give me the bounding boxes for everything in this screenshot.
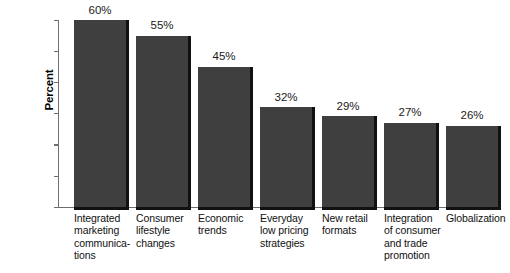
category-label-line: Everyday xyxy=(260,212,330,224)
bar-item: 32% xyxy=(260,85,312,207)
bar-rect xyxy=(322,116,374,206)
category-label-line: changes xyxy=(136,237,206,249)
category-label-line: of consumer xyxy=(384,224,454,236)
y-tick-mark xyxy=(54,144,59,145)
category-label: Everydaylow pricingstrategies xyxy=(260,212,330,249)
bar-value-label: 26% xyxy=(446,109,498,121)
category-label: Integratedmarketingcommunica-tions xyxy=(74,212,144,262)
bar-value-label: 32% xyxy=(260,91,312,103)
category-label-line: communica- xyxy=(74,237,144,249)
bar-item: 45% xyxy=(198,45,250,207)
y-tick-mark xyxy=(54,176,59,177)
category-label-line: marketing xyxy=(74,224,144,236)
category-label-line: New retail xyxy=(322,212,392,224)
y-axis-title: Percent xyxy=(43,55,59,125)
bar-rect xyxy=(198,67,250,207)
bar-item: 29% xyxy=(322,94,374,206)
x-axis-line xyxy=(58,207,472,208)
category-label-line: low pricing xyxy=(260,224,330,236)
bar-value-label: 45% xyxy=(198,50,250,62)
y-tick-mark xyxy=(54,20,59,21)
category-label-line: strategies xyxy=(260,237,330,249)
y-tick-mark xyxy=(54,51,59,52)
category-label-line: Consumer xyxy=(136,212,206,224)
category-label: Integrationof consumerand tradepromotion xyxy=(384,212,454,262)
bar-rect xyxy=(136,36,188,207)
category-label-line: trends xyxy=(198,224,268,236)
category-label-line: formats xyxy=(322,224,392,236)
bar-rect xyxy=(384,123,436,207)
category-label-line: and trade xyxy=(384,237,454,249)
bar-value-label: 60% xyxy=(74,4,126,16)
bar-rect xyxy=(446,126,498,207)
bar-value-label: 55% xyxy=(136,19,188,31)
category-label: Economictrends xyxy=(198,212,268,237)
plot-area: 0102030405060 60%55%45%32%29%27%26% xyxy=(58,20,472,208)
category-label: Globalization xyxy=(446,212,510,224)
bar-item: 27% xyxy=(384,101,436,207)
bar-item: 55% xyxy=(136,14,188,207)
category-label-line: Integrated xyxy=(74,212,144,224)
y-tick-mark xyxy=(54,113,59,114)
category-label-line: tions xyxy=(74,249,144,261)
category-label: Consumerlifestylechanges xyxy=(136,212,206,249)
y-tick-mark xyxy=(54,82,59,83)
category-label-line: Globalization xyxy=(446,212,510,224)
y-tick-mark xyxy=(54,207,59,208)
category-label-line: lifestyle xyxy=(136,224,206,236)
category-label-line: promotion xyxy=(384,249,454,261)
category-label: New retailformats xyxy=(322,212,392,237)
bar-item: 26% xyxy=(446,104,498,207)
x-axis-category-labels: Integratedmarketingcommunica-tionsConsum… xyxy=(58,212,504,273)
category-label-line: Economic xyxy=(198,212,268,224)
bar-value-label: 29% xyxy=(322,100,374,112)
bar-value-label: 27% xyxy=(384,106,436,118)
bar-item: 60% xyxy=(74,0,126,207)
bar-rect xyxy=(260,107,312,207)
bar-rect xyxy=(74,20,126,207)
category-label-line: Integration xyxy=(384,212,454,224)
